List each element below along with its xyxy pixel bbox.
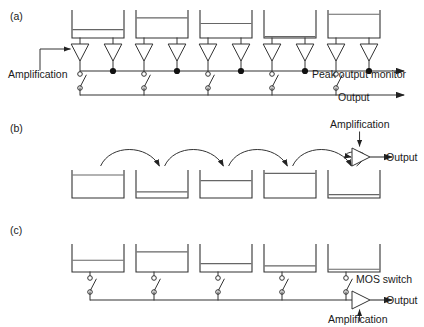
amplifier-icon bbox=[296, 44, 314, 61]
switch-node-top bbox=[88, 276, 93, 281]
amplifier-icon bbox=[135, 44, 153, 61]
monitor-tap-node bbox=[110, 68, 116, 74]
ccd-readout-figure: (a)AmplificationPeak output monitorOutpu… bbox=[0, 0, 424, 327]
well-body bbox=[264, 170, 316, 198]
switch-node-top bbox=[344, 276, 349, 281]
charge-transfer-arrow bbox=[293, 150, 352, 167]
mos-switch-icon[interactable] bbox=[88, 276, 97, 295]
well-body bbox=[200, 10, 252, 38]
switch-node-top bbox=[270, 72, 275, 77]
charge-well bbox=[328, 170, 380, 198]
mos-switch-icon[interactable] bbox=[142, 72, 151, 91]
amplifier-icon bbox=[168, 44, 186, 61]
switch-node-top bbox=[152, 276, 157, 281]
panel-c-label: (c) bbox=[10, 224, 22, 236]
monitor-tap-node bbox=[238, 68, 244, 74]
mos-switch-icon[interactable] bbox=[206, 72, 215, 91]
charge-well bbox=[264, 170, 316, 198]
switch-blade bbox=[219, 279, 225, 290]
switch-blade bbox=[273, 75, 279, 86]
mos-switch-icon[interactable] bbox=[280, 276, 289, 295]
charge-well bbox=[264, 10, 316, 38]
charge-transfer-arrow bbox=[101, 150, 160, 167]
charge-well bbox=[72, 10, 124, 38]
mos-switch-icon[interactable] bbox=[216, 276, 225, 295]
monitor-tap-node bbox=[174, 68, 180, 74]
annotation-peak-output-monitor: Peak output monitor bbox=[312, 68, 406, 80]
well-body bbox=[264, 244, 316, 272]
switch-blade bbox=[283, 279, 289, 290]
well-body bbox=[72, 244, 124, 272]
amplifier-icon bbox=[71, 44, 89, 61]
charge-well bbox=[328, 10, 380, 38]
amplifier-icon bbox=[360, 44, 378, 61]
mos-switch-icon[interactable] bbox=[152, 276, 161, 295]
switch-blade bbox=[81, 75, 87, 86]
switch-node-top bbox=[142, 72, 147, 77]
switch-node-top bbox=[216, 276, 221, 281]
well-body bbox=[136, 10, 188, 38]
charge-well bbox=[136, 244, 188, 272]
mos-switch-icon[interactable] bbox=[78, 72, 87, 91]
amplifier-icon bbox=[104, 44, 122, 61]
annotation-output: Output bbox=[338, 91, 370, 103]
annotation-amplification: Amplification bbox=[328, 313, 388, 325]
switch-node-top bbox=[280, 276, 285, 281]
annotation-output: Output bbox=[386, 151, 418, 163]
panel-c: (c)MOS switchOutputAmplification bbox=[10, 224, 418, 325]
charge-well bbox=[200, 170, 252, 198]
annotation-amplification: Amplification bbox=[8, 68, 68, 80]
well-body bbox=[72, 10, 124, 38]
charge-well bbox=[136, 10, 188, 38]
well-body bbox=[200, 244, 252, 272]
panel-a-label: (a) bbox=[10, 10, 23, 22]
charge-well bbox=[200, 10, 252, 38]
amplifier-icon bbox=[199, 44, 217, 61]
charge-well bbox=[136, 170, 188, 198]
charge-well bbox=[72, 170, 124, 198]
switch-blade bbox=[91, 279, 97, 290]
annotation-amplification: Amplification bbox=[330, 118, 390, 130]
amplifier-icon bbox=[263, 44, 281, 61]
switch-blade bbox=[347, 279, 353, 290]
well-body bbox=[72, 170, 124, 198]
well-body bbox=[136, 244, 188, 272]
annotation-output: Output bbox=[386, 294, 418, 306]
well-body bbox=[264, 10, 316, 38]
well-body bbox=[328, 244, 380, 272]
monitor-tap-node bbox=[302, 68, 308, 74]
charge-well bbox=[264, 244, 316, 272]
switch-blade bbox=[155, 279, 161, 290]
figure-canvas: (a)AmplificationPeak output monitorOutpu… bbox=[0, 0, 424, 327]
amplifier-icon bbox=[352, 148, 370, 166]
switch-blade bbox=[145, 75, 151, 86]
switch-node-top bbox=[206, 72, 211, 77]
amplifier-icon bbox=[232, 44, 250, 61]
charge-transfer-arrow bbox=[165, 150, 224, 167]
panel-a: (a)AmplificationPeak output monitorOutpu… bbox=[8, 10, 406, 103]
amplifier-icon bbox=[327, 44, 345, 61]
amplifier-icon bbox=[352, 291, 370, 309]
charge-well bbox=[328, 244, 380, 272]
annotation-mos-switch: MOS switch bbox=[356, 273, 412, 285]
mos-switch-icon[interactable] bbox=[270, 72, 279, 91]
panel-b-label: (b) bbox=[10, 122, 23, 134]
well-body bbox=[136, 170, 188, 198]
charge-well bbox=[200, 244, 252, 272]
amplification-pointer bbox=[40, 49, 70, 70]
switch-blade bbox=[209, 75, 215, 86]
well-body bbox=[200, 170, 252, 198]
charge-transfer-arrow bbox=[229, 150, 288, 167]
well-body bbox=[328, 170, 380, 198]
panel-b: (b)AmplificationOutput bbox=[10, 118, 418, 198]
switch-node-top bbox=[78, 72, 83, 77]
charge-well bbox=[72, 244, 124, 272]
mos-switch-icon[interactable] bbox=[344, 276, 353, 295]
